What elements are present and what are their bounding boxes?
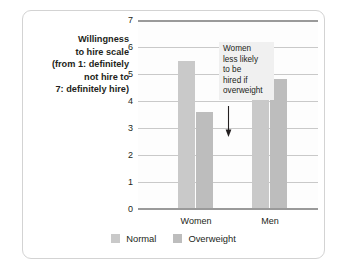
chart-card: Willingness to hire scale (from 1: defin… (22, 10, 325, 259)
y-axis-tick-label: 3 (128, 123, 133, 133)
legend-label-normal: Normal (126, 233, 156, 244)
chart-legend: NormalOverweight (23, 233, 324, 244)
legend-label-overweight: Overweight (188, 233, 235, 244)
x-axis-baseline (138, 208, 318, 210)
bar-women-normal (178, 61, 195, 210)
annotation-callout: Women less likely to be hired if overwei… (219, 42, 274, 100)
y-axis-tick-label: 6 (128, 42, 133, 52)
annotation-arrow-down-icon (224, 106, 233, 138)
y-axis-tick-label: 0 (128, 204, 133, 214)
y-axis-tick-label: 4 (128, 96, 133, 106)
annotation-line-5: overweight (223, 86, 271, 97)
gridline (138, 182, 318, 183)
legend-item-overweight: Overweight (173, 233, 235, 244)
plot-area: 01234567 WomenMen Women less likely to b… (138, 20, 318, 209)
legend-swatch-overweight (173, 234, 182, 243)
legend-swatch-normal (111, 234, 120, 243)
y-axis-tick-label: 1 (128, 177, 133, 187)
y-axis-title-line-4: not hire to (25, 71, 129, 84)
gridline (138, 155, 318, 156)
y-axis-title-line-3: (from 1: definitely (25, 58, 129, 71)
y-axis-title-line-5: 7: definitely hire) (25, 83, 129, 96)
y-axis-title-line-2: to hire scale (25, 46, 129, 59)
annotation-line-3: to be (223, 65, 271, 76)
x-axis-label-women: Women (181, 216, 212, 226)
gridline (138, 101, 318, 102)
y-axis-title-line-1: Willingness (25, 33, 129, 46)
annotation-line-4: hired if (223, 76, 271, 87)
annotation-line-1: Women (223, 44, 271, 55)
annotation-line-2: less likely (223, 55, 271, 66)
y-axis-tick-label: 2 (128, 150, 133, 160)
bar-women-overweight (196, 112, 213, 209)
y-axis-tick-label: 5 (128, 69, 133, 79)
legend-item-normal: Normal (111, 233, 156, 244)
y-axis-title: Willingness to hire scale (from 1: defin… (25, 33, 129, 96)
x-axis-label-men: Men (261, 216, 279, 226)
y-axis-tick-label: 7 (128, 15, 133, 25)
gridline (138, 20, 318, 22)
